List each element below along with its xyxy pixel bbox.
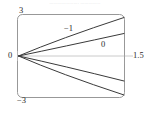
curve-annotation-zero: 0 xyxy=(101,40,105,49)
figure-container: ...................... ............... 3… xyxy=(0,0,150,114)
y-max-label: 3 xyxy=(19,6,23,15)
curve-annotation-minus-one: −1 xyxy=(64,24,73,33)
x-max-label: 1.5 xyxy=(133,51,144,60)
origin-label: 0 xyxy=(8,51,12,60)
y-min-label: −3 xyxy=(17,96,26,105)
